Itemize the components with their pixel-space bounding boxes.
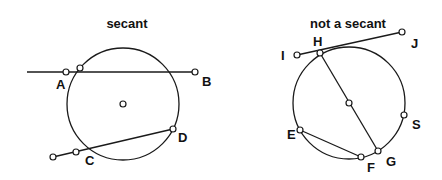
point-i [294,52,300,58]
line-cd [53,129,173,157]
label-a: A [56,77,66,92]
point-intersection-top [77,65,83,71]
label-h: H [313,34,322,49]
point-center-right [346,100,352,106]
point-a [63,69,69,75]
label-j: J [411,36,418,51]
panel-not-secant: not a secant H I J S E F G [281,16,421,175]
label-f: F [367,160,375,175]
label-d: D [178,130,187,145]
point-g [375,148,381,154]
point-c-outer [73,149,79,155]
label-e: E [287,127,296,142]
point-s [401,112,407,118]
point-c-end [50,154,56,160]
label-g: G [386,154,396,169]
point-e [297,127,303,133]
diagram-canvas: secant A B D C not a secant H I J S E [0,0,442,180]
label-c: C [85,153,95,168]
point-b [192,69,198,75]
point-j [399,29,405,35]
label-b: B [202,74,211,89]
panel-secant: secant A B D C [27,16,211,168]
point-center-left [120,101,126,107]
line-ef [300,130,361,157]
panel-title-secant: secant [106,16,148,31]
point-d [170,126,176,132]
point-h [317,50,323,56]
label-i: I [281,48,285,63]
point-f [358,154,364,160]
panel-title-not-secant: not a secant [310,16,387,31]
label-s: S [412,117,421,132]
